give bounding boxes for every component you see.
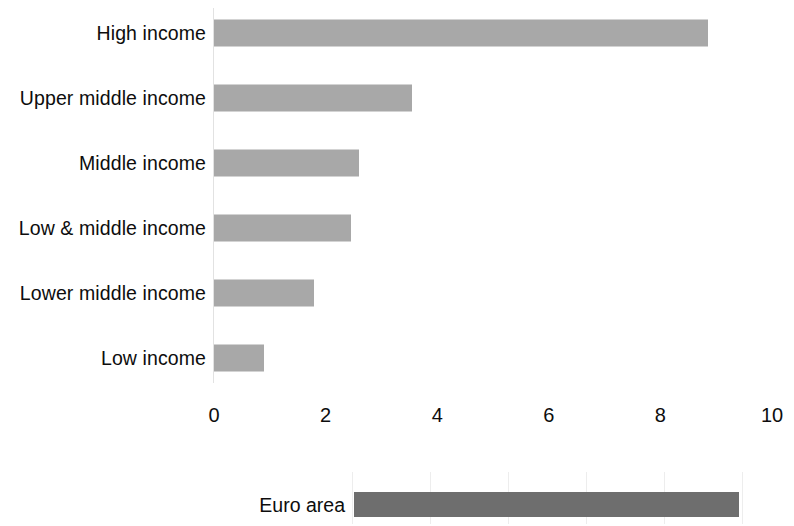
bar-euro-area: [354, 492, 739, 517]
bar-row: Lower middle income: [0, 260, 794, 325]
bar-high-income: [214, 19, 708, 46]
bar-lower-middle-income: [214, 279, 314, 306]
bar-upper-middle-income: [214, 84, 412, 111]
bar-row: Upper middle income: [0, 65, 794, 130]
gridline: [742, 472, 743, 524]
bar-category-label: Middle income: [79, 151, 206, 174]
main-chart-panel: High income Upper middle income Middle i…: [0, 0, 794, 400]
bar-middle-income: [214, 149, 359, 176]
bar-category-label: Lower middle income: [20, 281, 206, 304]
x-tick-10: 10: [761, 404, 783, 427]
x-tick-2: 2: [320, 404, 331, 427]
bar-row: Low & middle income: [0, 195, 794, 260]
bar-category-label: Low income: [101, 346, 206, 369]
x-axis-tick-labels: 0 2 4 6 8 10: [0, 404, 794, 438]
bar-category-label: Low & middle income: [19, 216, 206, 239]
bar-low-income: [214, 344, 264, 371]
euro-area-label: Euro area: [259, 494, 345, 517]
x-tick-6: 6: [543, 404, 554, 427]
bar-category-label: Upper middle income: [20, 86, 206, 109]
bar-chart: High income Upper middle income Middle i…: [0, 0, 794, 526]
x-tick-0: 0: [208, 404, 219, 427]
bar-row: Middle income: [0, 130, 794, 195]
bar-row: Low income: [0, 325, 794, 390]
bar-category-label: High income: [97, 21, 206, 44]
x-tick-8: 8: [655, 404, 666, 427]
bar-row: High income: [0, 0, 794, 65]
euro-area-panel: Euro area: [0, 470, 794, 526]
bar-low-and-middle-income: [214, 214, 351, 241]
x-tick-4: 4: [432, 404, 443, 427]
